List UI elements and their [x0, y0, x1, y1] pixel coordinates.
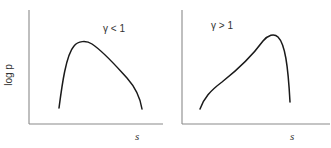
diagram-canvas: log p γ < 1 s γ > 1 s	[0, 0, 331, 148]
figure: log p γ < 1 s γ > 1 s	[0, 0, 331, 148]
panel-right: γ > 1 s	[182, 10, 330, 142]
right-curve	[200, 35, 290, 109]
left-condition-label: γ < 1	[103, 23, 125, 34]
panel-left: log p γ < 1 s	[3, 10, 163, 142]
right-x-axis-label: s	[290, 130, 294, 142]
left-curve	[59, 42, 142, 109]
y-axis-label: log p	[3, 64, 14, 86]
left-x-axis-label: s	[135, 130, 139, 142]
right-condition-label: γ > 1	[211, 20, 233, 31]
